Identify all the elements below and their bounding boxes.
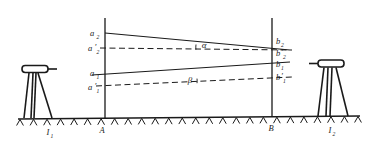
ground-hatch-tick [152,118,155,124]
ground-hatch-tick [277,117,280,123]
right-staff-labels: b 2 b ′ 2 b 1 b ′ 1 [276,36,286,84]
diagram-canvas: α β a 2 a ′ 2 a 1 a ′ 1 [0,0,376,156]
ground-hatch-tick [142,118,145,124]
label-b2-text: b [276,36,280,46]
instrument-label-I1: I 1 [46,127,54,139]
station-label-A: A [98,125,105,135]
right-theodolite-group [309,60,348,116]
ground-hatch-tick [84,119,87,125]
ground-hatch-tick [304,117,307,123]
label-a1-subscript: 1 [97,74,100,80]
ground-hatch-tick [263,117,266,123]
ground-hatch-tick [111,119,114,125]
ground-hatch-tick [179,118,182,124]
upper-sight-line [105,33,290,50]
ground-hatch-tick [125,119,128,125]
ground-hatch-tick [344,117,347,123]
right-tripod-leg-4 [336,68,348,117]
right-tripod-leg-2 [326,68,328,117]
left-tripod-leg-4 [38,73,52,118]
left-theodolite-body [22,66,48,73]
instrument-label-I1-subscript: 1 [51,133,54,139]
right-tripod-leg-3 [330,68,332,117]
station-label-B: B [268,123,273,133]
ground-hatch-tick [88,119,91,125]
label-b1: b 1 [276,59,284,71]
ground-hatch-tick [331,117,334,123]
ground-hatch-tick [209,118,212,124]
ground-hatch-tick [358,117,361,123]
left-tripod-leg-1 [24,73,29,118]
ground-hatch-tick [317,117,320,123]
label-b1-prime-subscript: 1 [283,78,286,84]
label-a1-prime: a ′ 1 [88,81,100,94]
label-b1-prime-text: b [276,72,280,82]
ground-hatch-tick [273,117,276,123]
ground-hatch-tick [155,118,158,124]
ground-hatch-tick [355,117,358,123]
label-a1: a 1 [90,68,100,80]
alpha-angle-label: α [202,40,207,50]
ground-hatch-tick [165,118,168,124]
ground-hatch-tick [341,117,344,123]
left-tripod-leg-3 [34,73,36,118]
ground-hatch-tick [44,119,47,125]
label-a1-text: a [90,68,94,78]
label-a2-prime-text: a [88,43,92,53]
ground-hatch-tick [47,119,50,125]
right-theodolite-body [318,60,344,67]
label-a2-subscript: 2 [97,34,100,40]
label-a2-text: a [90,28,94,38]
ground-line [18,116,360,119]
label-b2-prime-subscript: 2 [283,54,286,60]
left-staff-labels: a 2 a ′ 2 a 1 a ′ 1 [88,28,100,94]
label-a1-prime-subscript: 1 [97,88,100,94]
ground-hatch-tick [74,119,77,125]
instrument-label-I2: I 2 [328,125,336,137]
label-a2-prime-subscript: 2 [97,49,100,55]
ground-hatch-tick [61,119,64,125]
ground-hatch-tick [71,119,74,125]
ground-hatch-tick [34,119,37,125]
ground-hatch-tick [290,117,293,123]
ground-hatch-tick [223,118,226,124]
ground-hatch-tick [236,118,239,124]
ground-hatch-tick [128,119,131,125]
label-b1-prime: b ′ 1 [276,71,286,84]
ground-hatch-tick [206,118,209,124]
ground-hatch-tick [20,120,23,126]
ground-hatch-tick [219,118,222,124]
ground-hatch-tick [57,119,60,125]
lower-sight-line [92,62,290,75]
label-a1-prime-text: a [88,82,92,92]
left-tripod-leg-2 [31,73,33,118]
right-tripod-leg-1 [318,68,324,117]
ground-hatch-tick [30,119,33,125]
label-a2-prime: a ′ 2 [88,42,100,55]
ground-hatch-tick [182,118,185,124]
ground-hatch-tick [192,118,195,124]
ground-group [17,116,362,126]
ground-hatch-tick [328,117,331,123]
ground-hatch-tick [233,118,236,124]
label-b2-prime: b ′ 2 [276,47,286,60]
ground-hatch-tick [98,119,101,125]
ground-hatch-tick [287,117,290,123]
ground-hatch-tick [260,117,263,123]
beta-angle-label: β [187,75,193,85]
ground-hatch-tick [138,118,141,124]
lower-horizontal-reference-line [96,77,292,86]
label-b1-text: b [276,59,280,69]
left-theodolite-group [22,66,57,119]
ground-hatch-tick [17,120,20,126]
ground-hatch-tick [101,119,104,125]
label-b2-prime-text: b [276,48,280,58]
ground-hatch-tick [301,117,304,123]
instrument-label-I2-subscript: 2 [333,131,336,137]
ground-hatch-tick [196,118,199,124]
ground-hatch-tick [314,117,317,123]
ground-hatch-tick [246,117,249,123]
station-labels: A B I 1 I 2 [46,123,336,139]
ground-hatch-tick [169,118,172,124]
ground-hatch-tick [115,119,118,125]
